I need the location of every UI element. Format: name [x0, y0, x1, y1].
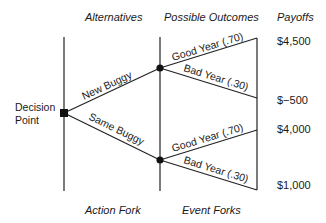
label-new-buggy: New Buggy [80, 68, 134, 102]
label-same-bad-year: Bad Year (.30) [182, 153, 250, 184]
event-node-new-buggy [156, 64, 163, 71]
event-node-same-buggy [156, 156, 163, 163]
decision-point-label-1: Decision [15, 101, 55, 113]
footer-event-forks: Event Forks [182, 204, 241, 216]
footer-action-fork: Action Fork [84, 204, 141, 216]
header-payoffs: Payoffs [277, 11, 314, 23]
payoff-same-bad: $1,000 [277, 179, 311, 191]
label-new-bad-year: Bad Year (.30) [182, 61, 250, 92]
payoff-new-good: $4,500 [277, 35, 311, 47]
label-new-good-year: Good Year (.70) [170, 30, 244, 63]
payoff-same-good: $4,000 [277, 123, 311, 135]
decision-node-square [60, 109, 68, 117]
branch-new-buggy [64, 68, 160, 113]
decision-tree-diagram: Alternatives Possible Outcomes Payoffs D… [0, 0, 326, 223]
header-possible-outcomes: Possible Outcomes [164, 11, 259, 23]
header-alternatives: Alternatives [84, 11, 143, 23]
decision-point-label-2: Point [15, 114, 39, 126]
payoff-new-bad: $−500 [277, 94, 308, 106]
